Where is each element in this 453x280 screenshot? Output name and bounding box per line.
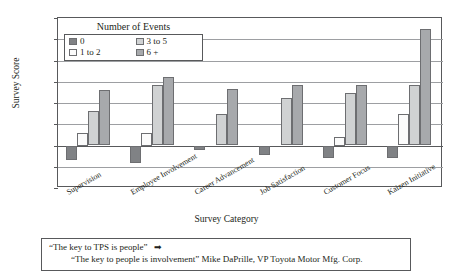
- legend-item: 0: [69, 37, 132, 46]
- y-tick-mark: [54, 18, 58, 19]
- legend-title: Number of Events: [64, 20, 203, 34]
- bar-group: [387, 18, 431, 188]
- y-tick-mark: [54, 167, 58, 168]
- zero-line: [58, 146, 443, 147]
- bar: [141, 133, 152, 146]
- bar: [323, 146, 334, 159]
- bar: [99, 90, 110, 146]
- caption-line-2: “The key to people is involvement” Mike …: [49, 254, 403, 264]
- legend-box: 03 to 51 to 26 +: [64, 34, 203, 61]
- legend-swatch-icon: [136, 49, 144, 56]
- y-tick-mark: [54, 188, 58, 189]
- bar: [152, 85, 163, 146]
- y-tick-mark: [54, 146, 58, 147]
- bar: [259, 146, 270, 155]
- bar: [409, 85, 420, 146]
- bar: [194, 146, 205, 150]
- bar: [334, 137, 345, 146]
- bar-group: [323, 18, 367, 188]
- legend-swatch-icon: [69, 38, 77, 45]
- bar: [216, 114, 227, 145]
- bar: [420, 29, 431, 145]
- legend-swatch-icon: [136, 38, 144, 45]
- arrow-right-icon: ➡: [154, 242, 162, 252]
- bar: [292, 85, 303, 146]
- y-axis-title: Survey Score: [11, 23, 21, 143]
- y-tick-mark: [54, 103, 58, 104]
- caption-line-1: “The key to TPS is people” ➡: [49, 242, 403, 252]
- legend-item: 1 to 2: [69, 48, 132, 57]
- bar-group: [259, 18, 303, 188]
- y-tick-mark: [54, 82, 58, 83]
- caption-box: “The key to TPS is people” ➡ “The key to…: [41, 238, 411, 271]
- chart-plot-area: Survey Score 302520151050−5−10 Supervisi…: [0, 0, 453, 232]
- x-axis-title: Survey Category: [0, 214, 453, 224]
- legend-label: 3 to 5: [147, 37, 168, 46]
- figure: Survey Score 302520151050−5−10 Supervisi…: [0, 0, 453, 280]
- y-tick-mark: [54, 124, 58, 125]
- legend-swatch-icon: [69, 49, 77, 56]
- legend-label: 1 to 2: [80, 48, 101, 57]
- y-tick-mark: [54, 61, 58, 62]
- y-tick-mark: [54, 39, 58, 40]
- legend-label: 0: [80, 37, 85, 46]
- bar: [227, 89, 238, 146]
- bar: [281, 98, 292, 146]
- gridline: [58, 82, 443, 83]
- caption-quote-1: “The key to TPS is people”: [49, 242, 148, 252]
- gridline: [58, 167, 443, 168]
- bar: [356, 85, 367, 146]
- legend-entries: 03 to 51 to 26 +: [69, 37, 198, 57]
- legend-item: 3 to 5: [136, 37, 199, 46]
- legend: Number of Events 03 to 51 to 26 +: [64, 20, 203, 61]
- bar: [88, 111, 99, 145]
- legend-item: 6 +: [136, 48, 199, 57]
- gridline: [58, 124, 443, 125]
- bar: [77, 133, 88, 146]
- bar: [130, 146, 141, 163]
- legend-label: 6 +: [147, 48, 159, 57]
- bar: [163, 77, 174, 145]
- bar: [398, 114, 409, 145]
- bar: [345, 93, 356, 145]
- gridline: [58, 103, 443, 104]
- bar: [66, 146, 77, 161]
- bar: [387, 146, 398, 159]
